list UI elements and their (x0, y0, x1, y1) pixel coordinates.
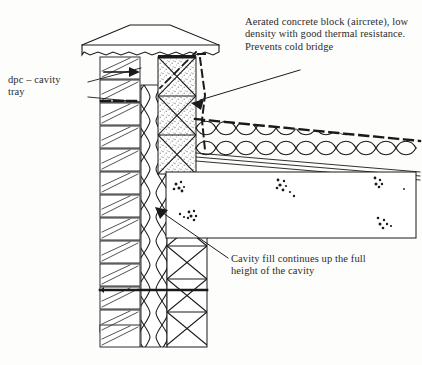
annotation-cavity-fill: Cavity fill continues up the full height… (231, 253, 396, 278)
annotation-dpc-cavity-tray: dpc – cavity tray (8, 74, 88, 99)
concrete-slab (166, 172, 416, 238)
diagram-canvas (0, 0, 422, 365)
construction-detail-diagram: Aerated concrete block (aircrete), low d… (0, 0, 422, 365)
line-to-aircrete-block (200, 70, 300, 100)
coping-stone (82, 25, 219, 55)
aircrete-block (158, 55, 196, 174)
annotation-aircrete-block: Aerated concrete block (aircrete), low d… (245, 16, 420, 53)
roof-membrane-dashed (195, 119, 420, 141)
